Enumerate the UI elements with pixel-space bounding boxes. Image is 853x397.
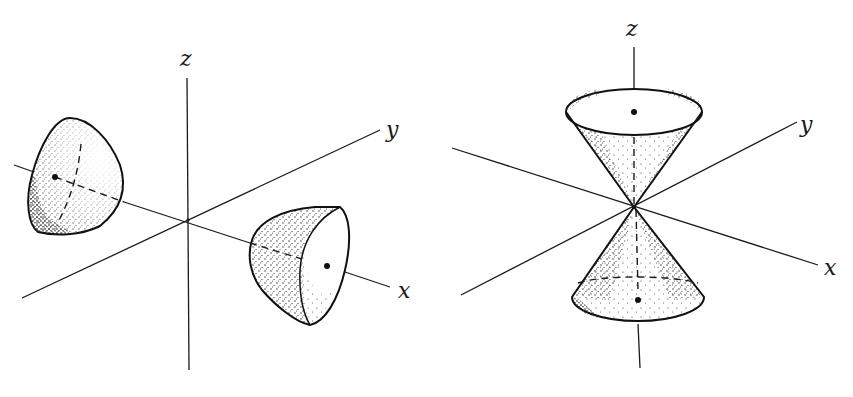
left-panel-hyperboloid: z y x bbox=[14, 46, 411, 370]
cone-lower-nappe bbox=[572, 207, 704, 321]
hyperboloid-front-sheet bbox=[250, 207, 349, 325]
left-x-axis-middle bbox=[124, 202, 250, 243]
right-z-axis-bottom bbox=[638, 324, 640, 368]
cone-vertex-origin bbox=[632, 205, 636, 209]
hyperboloid-back-sheet bbox=[28, 118, 124, 235]
lower-cone-center-dot bbox=[635, 297, 641, 303]
cone-upper-nappe bbox=[566, 89, 702, 207]
left-z-label: z bbox=[179, 46, 192, 71]
back-sheet-vertex-dot bbox=[52, 174, 58, 180]
right-x-label: x bbox=[824, 255, 837, 280]
right-panel-double-cone: z x y bbox=[452, 16, 837, 368]
left-y-label: y bbox=[385, 117, 399, 142]
left-x-axis-back bbox=[14, 165, 34, 172]
quadric-surfaces-figure: z y x bbox=[0, 0, 853, 397]
right-y-label: y bbox=[799, 112, 813, 137]
right-z-label: z bbox=[625, 16, 638, 41]
left-x-label: x bbox=[398, 278, 411, 303]
front-sheet-vertex-dot bbox=[324, 263, 330, 269]
left-z-axis bbox=[187, 78, 189, 370]
left-origin bbox=[186, 218, 189, 221]
upper-cone-center-dot bbox=[631, 109, 637, 115]
